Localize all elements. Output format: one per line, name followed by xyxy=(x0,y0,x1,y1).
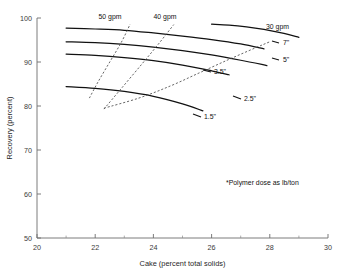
x-tick-label-28: 28 xyxy=(266,243,274,252)
series-label-1-5: 1.5" xyxy=(204,113,217,120)
curve-40-gpm xyxy=(104,25,174,109)
y-axis-title: Recovery (percent) xyxy=(5,97,14,160)
curve-3-5 xyxy=(66,54,229,75)
y-tick-label-90: 90 xyxy=(24,58,32,67)
label-leader-0 xyxy=(272,41,279,43)
series-label-3-5: 3.5" xyxy=(214,68,227,75)
y-tick-label-100: 100 xyxy=(20,14,32,23)
label-leader-4 xyxy=(193,114,201,117)
x-tick-label-24: 24 xyxy=(149,243,157,252)
label-leader-1 xyxy=(272,58,279,60)
x-tick-label-26: 26 xyxy=(208,243,216,252)
series-label-5: 5" xyxy=(283,56,290,63)
series-label-50-gpm: 50 gpm xyxy=(99,13,122,21)
curve-50-gpm xyxy=(89,24,130,98)
data-curves-group xyxy=(66,24,299,111)
y-tick-label-60: 60 xyxy=(24,190,32,199)
series-label-2-5: 2.5" xyxy=(244,95,257,102)
series-label-40-gpm: 40 gpm xyxy=(154,13,177,21)
y-tick-label-50: 50 xyxy=(24,234,32,243)
series-label-7: 7" xyxy=(283,39,290,46)
curve-7 xyxy=(66,28,264,49)
label-leader-3 xyxy=(233,96,241,99)
y-tick-label-80: 80 xyxy=(24,102,32,111)
x-axis-title: Cake (percent total solids) xyxy=(140,259,226,268)
y-axis-ticks: 5060708090100 xyxy=(20,14,41,243)
x-tick-label-30: 30 xyxy=(324,243,332,252)
chart-plot-area: 202224262830 5060708090100 7"5"3.5"2.5"1… xyxy=(0,0,338,272)
chart-container: 202224262830 5060708090100 7"5"3.5"2.5"1… xyxy=(0,0,338,272)
curve-1-5 xyxy=(66,87,203,111)
x-tick-label-20: 20 xyxy=(33,243,41,252)
series-label-30-gpm: 30 gpm xyxy=(266,23,289,31)
footnote-text: *Polymer dose as lb/ton xyxy=(226,179,299,187)
y-tick-label-70: 70 xyxy=(24,146,32,155)
x-tick-label-22: 22 xyxy=(91,243,99,252)
x-axis-ticks: 202224262830 xyxy=(33,234,332,252)
